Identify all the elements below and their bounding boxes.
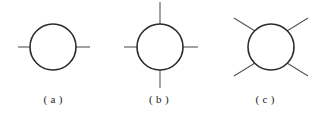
diagram-a-caption: ( a ) xyxy=(0,92,106,106)
diagram-c-loop-circle xyxy=(248,24,294,70)
figure-panel: ( a )( b )( c ) xyxy=(0,0,318,119)
diagram-c-leg-lower-left xyxy=(234,63,255,76)
diagram-c-leg-lower-right xyxy=(287,63,308,76)
diagram-c: ( c ) xyxy=(212,0,318,119)
diagram-b-loop-circle xyxy=(137,24,183,70)
diagram-c-canvas xyxy=(212,0,318,92)
diagram-b-canvas xyxy=(106,0,212,92)
diagram-b-caption: ( b ) xyxy=(106,92,212,106)
diagram-c-caption: ( c ) xyxy=(212,92,318,106)
diagram-b: ( b ) xyxy=(106,0,212,119)
diagram-c-leg-upper-left xyxy=(234,18,255,31)
diagram-a-loop-circle xyxy=(30,24,76,70)
diagram-c-leg-upper-right xyxy=(287,18,308,31)
diagram-a-canvas xyxy=(0,0,106,92)
diagram-a: ( a ) xyxy=(0,0,106,119)
